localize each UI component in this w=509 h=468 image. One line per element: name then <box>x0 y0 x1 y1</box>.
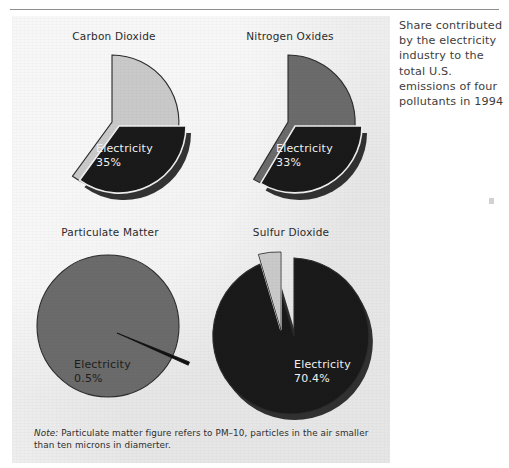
slice-label-value: 33% <box>276 156 333 170</box>
pie-svg-sulfur-dioxide <box>198 242 384 424</box>
slice-label-electricity: Electricity 35% <box>96 142 153 169</box>
pie-chart-sulfur-dioxide: Sulfur Dioxide Electricity 70.4% <box>198 226 384 426</box>
note-label: Note: <box>34 428 58 438</box>
pie-title-nitrogen-oxides: Nitrogen Oxides <box>202 30 378 42</box>
pie-chart-particulate-matter: Particulate Matter Electricity 0.5% <box>22 226 198 416</box>
figure-note: Note: Particulate matter figure refers t… <box>34 427 378 451</box>
slice-label-name: Electricity <box>96 142 153 156</box>
slice-label-name: Electricity <box>276 142 333 156</box>
slice-electricity[interactable] <box>213 258 369 414</box>
pie-svg-nitrogen-oxides <box>202 46 378 214</box>
pie-chart-nitrogen-oxides: Nitrogen Oxides Electricity 33% <box>202 30 378 214</box>
pie-svg-carbon-dioxide <box>26 46 202 214</box>
figure-caption: Share contributed by the electricity ind… <box>399 18 504 109</box>
pie-svg-particulate-matter <box>22 242 198 414</box>
figure-root: { "figure": { "caption": "Share contribu… <box>0 0 509 468</box>
pie-title-carbon-dioxide: Carbon Dioxide <box>26 30 202 42</box>
slice-label-value: 70.4% <box>294 372 351 386</box>
top-divider-rule <box>10 9 499 10</box>
slice-label-value: 0.5% <box>74 372 131 386</box>
pie-chart-carbon-dioxide: Carbon Dioxide Electricity 35% <box>26 30 202 214</box>
slice-label-value: 35% <box>96 156 153 170</box>
pie-title-particulate-matter: Particulate Matter <box>22 226 198 238</box>
pie-title-sulfur-dioxide: Sulfur Dioxide <box>198 226 384 238</box>
slice-label-electricity: Electricity 70.4% <box>294 358 351 385</box>
slice-label-electricity: Electricity 0.5% <box>74 358 131 385</box>
note-body: Particulate matter figure refers to PM–1… <box>34 428 368 450</box>
chart-panel: Carbon Dioxide Electricity 35% Nitrogen … <box>12 16 390 463</box>
scan-artifact-mark <box>489 198 494 204</box>
slice-label-electricity: Electricity 33% <box>276 142 333 169</box>
slice-label-name: Electricity <box>74 358 131 372</box>
slice-label-name: Electricity <box>294 358 351 372</box>
